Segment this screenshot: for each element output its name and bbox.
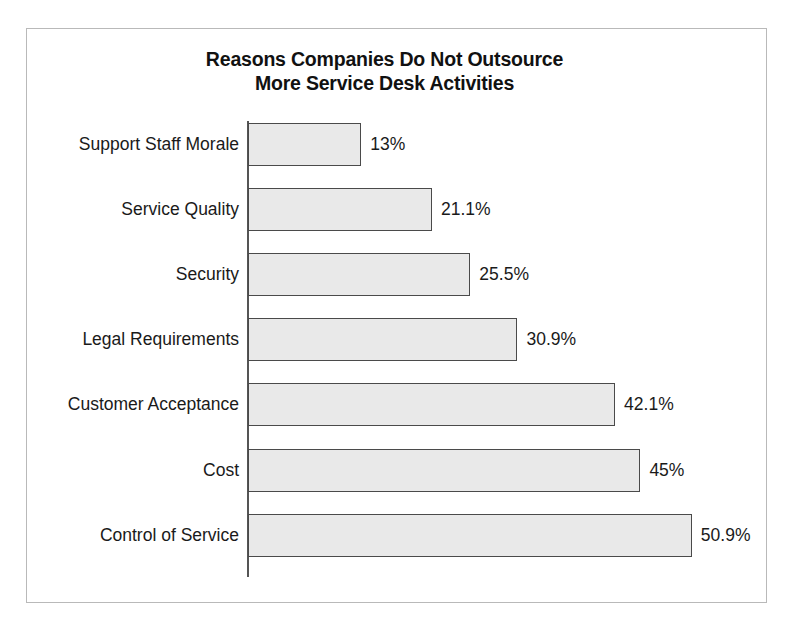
bar-value-label: 30.9% xyxy=(526,318,576,361)
category-label: Support Staff Morale xyxy=(79,123,239,166)
bar xyxy=(248,253,470,296)
bar-row: Customer Acceptance 42.1% xyxy=(27,383,768,426)
category-label: Service Quality xyxy=(121,188,239,231)
category-label: Customer Acceptance xyxy=(68,383,239,426)
bar-row: Cost 45% xyxy=(27,449,768,492)
bar-row: Security 25.5% xyxy=(27,253,768,296)
bar-value-label: 50.9% xyxy=(701,514,751,557)
bar-row: Control of Service 50.9% xyxy=(27,514,768,557)
chart-frame: Reasons Companies Do Not Outsource More … xyxy=(26,28,767,603)
category-label: Security xyxy=(176,253,239,296)
bar-row: Legal Requirements 30.9% xyxy=(27,318,768,361)
bar-row: Support Staff Morale 13% xyxy=(27,123,768,166)
category-label: Control of Service xyxy=(100,514,239,557)
plot-area: Support Staff Morale 13% Service Quality… xyxy=(27,29,768,604)
bar xyxy=(248,383,615,426)
category-label: Cost xyxy=(203,449,239,492)
bar-value-label: 45% xyxy=(649,449,684,492)
category-label: Legal Requirements xyxy=(82,318,239,361)
bar-value-label: 21.1% xyxy=(441,188,491,231)
bar xyxy=(248,514,692,557)
bar-row: Service Quality 21.1% xyxy=(27,188,768,231)
bar xyxy=(248,449,640,492)
bar-value-label: 25.5% xyxy=(479,253,529,296)
bar-value-label: 42.1% xyxy=(624,383,674,426)
bar xyxy=(248,318,517,361)
bar-value-label: 13% xyxy=(370,123,405,166)
bar xyxy=(248,188,432,231)
bar xyxy=(248,123,361,166)
